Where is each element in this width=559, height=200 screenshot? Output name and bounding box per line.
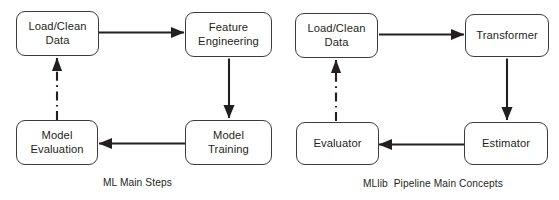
node-evaluator[interactable]: Evaluator xyxy=(296,122,379,165)
node-load-clean-data[interactable]: Load/Clean Data xyxy=(16,11,99,56)
node-label-line2: Data xyxy=(45,34,69,46)
node-label: Load/Clean Data xyxy=(303,22,369,49)
node-label-line1: Feature xyxy=(209,21,248,33)
node-label: Model Evaluation xyxy=(26,129,87,156)
node-model-training[interactable]: Model Training xyxy=(185,120,272,165)
node-label: Load/Clean Data xyxy=(24,20,90,47)
node-model-evaluation[interactable]: Model Evaluation xyxy=(16,120,98,165)
node-label-line1: Model xyxy=(42,129,73,141)
node-feature-engineering[interactable]: Feature Engineering xyxy=(185,12,272,57)
node-label-line1: Model xyxy=(213,129,244,141)
node-label-line1: Estimator xyxy=(482,137,530,149)
node-estimator[interactable]: Estimator xyxy=(464,122,548,165)
node-label-line2: Evaluation xyxy=(30,143,83,155)
node-label-line2: Engineering xyxy=(198,35,259,47)
node-label-line1: Transformer xyxy=(476,29,538,41)
node-label: Evaluator xyxy=(309,137,365,151)
node-label-line1: Load/Clean xyxy=(28,20,86,32)
node-label-line1: Load/Clean xyxy=(307,22,365,34)
node-transformer[interactable]: Transformer xyxy=(465,14,549,57)
caption-mllib-pipeline-main-concepts: MLlib Pipeline Main Concepts xyxy=(363,178,503,189)
node-label: Transformer xyxy=(472,29,542,43)
node-label-line2: Data xyxy=(324,36,348,48)
node-label: Estimator xyxy=(478,137,534,151)
node-label: Feature Engineering xyxy=(194,21,263,48)
node-label: Model Training xyxy=(204,129,253,156)
node-label-line1: Evaluator xyxy=(313,137,361,149)
caption-ml-main-steps: ML Main Steps xyxy=(103,177,172,188)
diagram-canvas: Load/Clean Data Feature Engineering Mode… xyxy=(0,0,559,200)
node-label-line2: Training xyxy=(208,143,249,155)
node-load-clean-data-2[interactable]: Load/Clean Data xyxy=(295,13,378,58)
